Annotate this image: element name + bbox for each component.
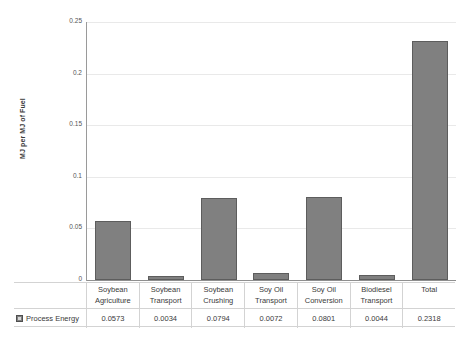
table-value-cell: 0.0794 [191,309,244,328]
bar-slot [351,22,404,280]
table-row-values: Process Energy 0.05730.00340.07940.00720… [14,308,455,328]
legend-cell-spacer [14,283,86,308]
bar[interactable] [253,273,289,280]
legend-label: Process Energy [26,314,79,323]
table-category-line: Transport [361,295,393,306]
plot-area [86,22,455,281]
table-category-line: Crushing [203,295,233,306]
bar[interactable] [306,197,342,280]
table-category-line: Agriculture [95,295,131,306]
legend-swatch-icon [16,315,23,322]
table-category-line: Soy Oil [312,284,336,295]
table-category-cell: Total [402,283,455,308]
table-category-line: Soybean [203,284,233,295]
bar[interactable] [412,41,448,280]
table-value-cell: 0.0044 [350,309,403,328]
table-category-cell: SoybeanAgriculture [86,283,139,308]
data-table: SoybeanAgricultureSoybeanTransportSoybea… [14,282,455,327]
bar-chart: MJ per MJ of Fuel 0.250.20.150.10.050 So… [0,0,466,339]
table-category-line: Transport [150,295,182,306]
bar-slot [140,22,193,280]
table-category-cell: Soy OilConversion [297,283,350,308]
table-category-line: Conversion [305,295,343,306]
y-axis-tick-label: 0.1 [58,173,82,180]
y-axis-tick-label: 0.2 [58,70,82,77]
bar[interactable] [148,276,184,280]
table-row-categories: SoybeanAgricultureSoybeanTransportSoybea… [14,283,455,308]
table-value-cell: 0.0573 [86,309,139,328]
bar-slot [298,22,351,280]
bar-slot [87,22,140,280]
table-category-cell: SoybeanCrushing [191,283,244,308]
bar[interactable] [95,221,131,280]
bar-slot [403,22,456,280]
table-value-cell: 0.0034 [139,309,192,328]
table-category-line: Transport [255,295,287,306]
y-axis-tick-label: 0.25 [58,18,82,25]
table-value-cell: 0.0801 [297,309,350,328]
table-category-line: Soy Oil [259,284,283,295]
bars-container [87,22,456,281]
legend-entry: Process Energy [14,309,86,328]
table-category-line: Total [421,284,437,295]
bar[interactable] [201,198,237,280]
table-category-line: Soybean [98,284,128,295]
table-category-cell: BiodieselTransport [350,283,403,308]
bar-slot [192,22,245,280]
table-category-line: Soybean [151,284,181,295]
bar-slot [245,22,298,280]
y-axis-tick-label: 0.15 [58,121,82,128]
table-category-cell: SoybeanTransport [139,283,192,308]
table-value-cell: 0.0072 [244,309,297,328]
table-value-cell: 0.2318 [402,309,455,328]
table-category-line: Biodiesel [361,284,391,295]
table-category-cell: Soy OilTransport [244,283,297,308]
bar[interactable] [359,275,395,280]
y-axis-tick-label: 0.05 [58,224,82,231]
y-axis-title: MJ per MJ of Fuel [19,69,26,189]
